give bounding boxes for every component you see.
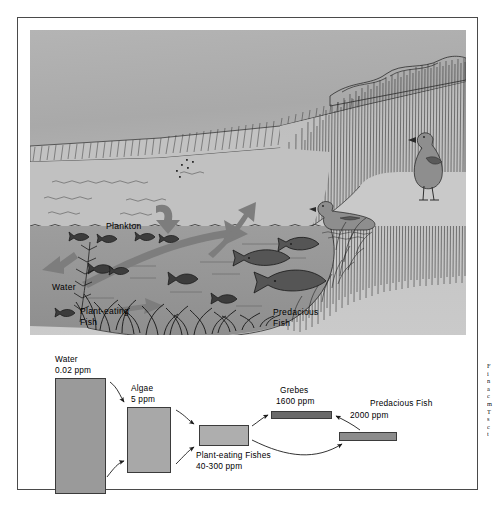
bar-label-water-name: Water [55, 354, 78, 364]
bar-label-grebes-name: Grebes [280, 385, 308, 395]
caption-line: F [487, 362, 499, 370]
figure-page: Plankton Water Plant-eating Fish Predaci… [0, 0, 499, 513]
bar-water [55, 378, 106, 494]
bar-label-algae-value: 5 ppm [131, 394, 155, 404]
scene-label-predacious-fish: Predacious Fish [273, 307, 319, 328]
caption-line: m [487, 400, 499, 408]
figure-caption-clipped: F i n a c m T s c t [487, 362, 499, 438]
bar-label-algae-name: Algae [131, 383, 153, 393]
bar-plant-eating-fishes [199, 425, 249, 446]
bar-label-grebes-value: 1600 ppm [276, 396, 315, 406]
caption-line: s [487, 415, 499, 423]
caption-line: a [487, 385, 499, 393]
bar-label-predacious-fish-line1: Predacious Fish [370, 398, 433, 408]
biomagnification-bar-diagram: Water 0.02 ppm Algae 5 ppm Plant-eating … [30, 336, 466, 486]
bar-label-plant-eating-fishes-value: 40-300 ppm [196, 461, 242, 471]
figure-plate-frame: Plankton Water Plant-eating Fish Predaci… [17, 17, 478, 490]
caption-line: c [487, 423, 499, 431]
caption-line: c [487, 392, 499, 400]
caption-line: t [487, 430, 499, 438]
bar-label-plant-eating-fishes-name: Plant-eating Fishes [196, 450, 271, 460]
marsh-scene-illustration: Plankton Water Plant-eating Fish Predaci… [30, 30, 466, 335]
bar-grebes [271, 411, 332, 419]
bar-label-water-value: 0.02 ppm [55, 365, 91, 375]
scene-label-plankton: Plankton [106, 221, 141, 232]
scene-label-water: Water [52, 282, 76, 293]
scene-label-plant-eating-fish: Plant-eating Fish [80, 306, 129, 327]
scene-artwork [30, 30, 466, 335]
caption-line: n [487, 377, 499, 385]
caption-line: T [487, 408, 499, 416]
caption-line: i [487, 370, 499, 378]
bar-label-predacious-fish-value: 2000 ppm [350, 410, 389, 420]
bar-predacious-fish [339, 432, 397, 441]
bar-algae [127, 407, 171, 473]
